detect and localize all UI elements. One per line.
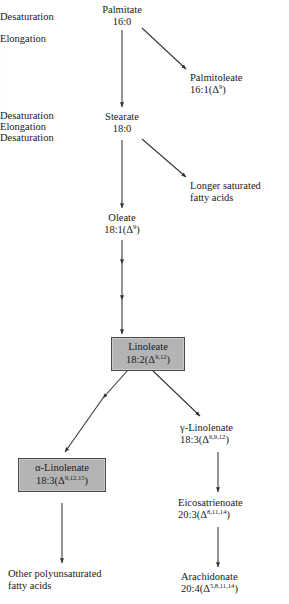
node-eicosatrienoate-formula: 20:3(Δ8,11,14) bbox=[178, 509, 243, 521]
arrow-linoleate-to-gamma-linolenate bbox=[152, 370, 200, 416]
node-stearate-name: Stearate bbox=[105, 111, 139, 123]
node-linoleate-name: Linoleate bbox=[118, 341, 178, 354]
node-palmitoleate-name: Palmitoleate bbox=[190, 72, 243, 84]
node-alpha-linolenate: α-Linolenate 18:3(Δ9,12,15) bbox=[18, 458, 106, 492]
node-linoleate-formula: 18:2(Δ9,12) bbox=[118, 354, 178, 367]
node-other-pufa-line1: Other polyunsaturated bbox=[8, 568, 102, 580]
node-gamma-linolenate-formula: 18:3(Δ6,9,12) bbox=[180, 434, 233, 446]
node-longer-saturated-fatty-acids: Longer saturated fatty acids bbox=[190, 180, 261, 205]
node-other-pufa-line2: fatty acids bbox=[8, 580, 102, 592]
node-palmitate: Palmitate 16:0 bbox=[102, 4, 142, 29]
node-palmitate-name: Palmitate bbox=[102, 4, 142, 16]
node-alpha-linolenate-formula: 18:3(Δ9,12,15) bbox=[25, 475, 99, 488]
node-eicosatrienoate: Eicosatrienoate 20:3(Δ8,11,14) bbox=[178, 497, 243, 522]
node-oleate: Oleate 18:1(Δ9) bbox=[104, 212, 140, 237]
node-arachidonate: Arachidonate 20:4(Δ5,8,11,14) bbox=[181, 571, 238, 596]
arrow-palmitate-to-palmitoleate bbox=[142, 28, 186, 69]
node-oleate-formula: 18:1(Δ9) bbox=[104, 224, 140, 236]
arrow-stearate-to-longer-saturated bbox=[142, 139, 186, 177]
node-stearate: Stearate 18:0 bbox=[105, 111, 139, 136]
node-stearate-formula: 18:0 bbox=[105, 123, 139, 135]
node-other-polyunsaturated-fatty-acids: Other polyunsaturated fatty acids bbox=[8, 568, 102, 593]
node-arachidonate-formula: 20:4(Δ5,8,11,14) bbox=[181, 583, 238, 595]
arrow-linoleate-to-alpha-linolenate-2 bbox=[65, 398, 103, 452]
node-linoleate: Linoleate 18:2(Δ9,12) bbox=[111, 337, 185, 371]
arrow-layer bbox=[0, 0, 289, 604]
node-palmitate-formula: 16:0 bbox=[102, 16, 142, 28]
node-alpha-linolenate-name: α-Linolenate bbox=[25, 462, 99, 475]
node-longer-saturated-line1: Longer saturated bbox=[190, 180, 261, 192]
node-palmitoleate: Palmitoleate 16:1(Δ9) bbox=[190, 72, 243, 97]
arrow-linoleate-to-alpha-linolenate-1 bbox=[103, 370, 128, 398]
node-longer-saturated-line2: fatty acids bbox=[190, 192, 261, 204]
node-gamma-linolenate: γ-Linolenate 18:3(Δ6,9,12) bbox=[180, 422, 233, 447]
fatty-acid-pathway-diagram: Palmitate 16:0 Palmitoleate 16:1(Δ9) Ste… bbox=[0, 0, 289, 604]
node-palmitoleate-formula: 16:1(Δ9) bbox=[190, 84, 243, 96]
